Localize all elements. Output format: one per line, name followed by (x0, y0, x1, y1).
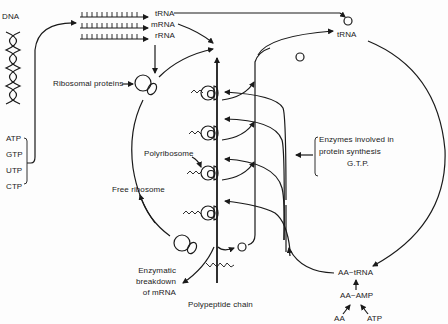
atp-to-aa-amp-arrow (361, 305, 368, 314)
enzymes-bracket (315, 137, 318, 176)
free-ribosome-arrow (140, 195, 170, 236)
released-trna-circle (296, 53, 304, 61)
polyribosome-ribosome-3 (187, 166, 218, 180)
free-trna-circle (344, 17, 352, 25)
enzymatic-breakdown-line1: Enzymatic (120, 266, 176, 276)
aa-trna-delivery-arrow-4 (225, 201, 290, 250)
nucleotide-bracket (24, 138, 27, 184)
trna-gene-strand (80, 12, 148, 17)
dna-label: DNA (2, 12, 19, 22)
free-ribosome-icon (174, 235, 198, 255)
aa-trna-label: AA~tRNA (338, 268, 373, 278)
nucleotide-ctp: CTP (6, 182, 22, 192)
enzymes-label-line1: Enzymes involved in (319, 135, 394, 145)
atp-label: ATP (367, 314, 382, 324)
trna-exit-arrow-2 (222, 122, 254, 140)
polyribosome-ribosome-1 (191, 86, 218, 100)
rrna-gene-strand (80, 34, 148, 39)
rrna-label: rRNA (155, 31, 175, 41)
trna-cycle-label: tRNA (337, 30, 357, 40)
exit-to-trna-arrow (258, 31, 333, 55)
aa-to-aa-amp-arrow (343, 305, 350, 314)
trna-exit-arrow-3 (222, 162, 254, 180)
nucleotide-utp: UTP (6, 166, 22, 176)
mrna-to-polyribosome-arrow (178, 24, 213, 43)
ribosome-to-polyribosome-arrow (159, 49, 213, 77)
nucleotide-gtp: GTP (6, 150, 23, 160)
polyribosome-label: Polyribosome (144, 149, 194, 159)
aa-amp-label: AA~AMP (340, 291, 373, 301)
polypeptide-chain-icon (206, 263, 234, 267)
trna-label: tRNA (155, 9, 175, 19)
mrna-label: mRNA (151, 20, 175, 30)
released-ribosome-subunit (238, 243, 246, 251)
ribosome-assembly-icon (135, 75, 158, 96)
free-ribosome-label: Free ribosome (112, 185, 165, 195)
trna-exit-tail (248, 235, 255, 245)
enzymatic-breakdown-line2: breakdown (120, 277, 176, 287)
trna-to-free-trna-arrow (174, 13, 345, 17)
dna-helix-icon (6, 32, 20, 104)
aa-label: AA (334, 314, 345, 324)
polypeptide-chain-label: Polypeptide chain (188, 300, 253, 310)
enzymes-label-line2: protein synthesis (319, 147, 381, 157)
nucleotide-atp: ATP (6, 134, 21, 144)
nucleotides-to-mrna-arrow (27, 23, 76, 163)
enzymatic-breakdown-line3: of mRNA (120, 288, 176, 298)
ribosomal-proteins-label: Ribosomal proteins (53, 79, 123, 89)
enzymes-label-gtp: G.T.P. (319, 159, 397, 169)
polyribosome-ribosome-4 (183, 206, 218, 220)
trna-exit-arrow-1 (222, 82, 254, 100)
protein-synthesis-diagram: DNA tRNA mRNA rRNA tRNA Ribosomal protei… (0, 0, 448, 324)
mrna-gene-strand (80, 23, 148, 28)
ribosome-release-arrow (218, 247, 234, 250)
aa-trna-main-return (290, 250, 334, 273)
polyribosome-ribosome-2 (189, 126, 218, 140)
